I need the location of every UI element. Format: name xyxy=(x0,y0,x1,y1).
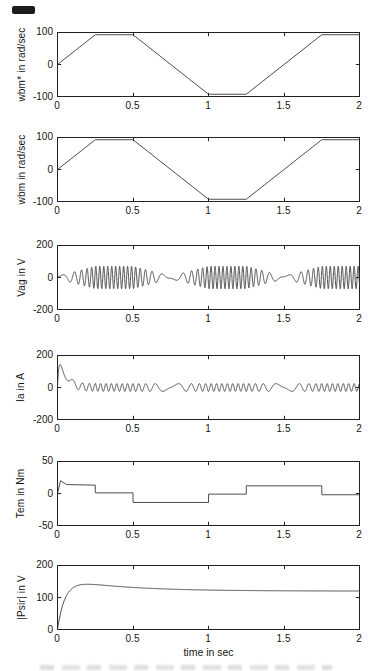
plot-canvas xyxy=(57,461,360,526)
x-tick-label: 2 xyxy=(342,633,376,645)
plot-canvas xyxy=(57,245,360,310)
x-tick-label: 1.5 xyxy=(267,205,301,217)
x-axis-label: time in sec xyxy=(57,646,360,658)
x-tick-label: 1.5 xyxy=(267,313,301,325)
waveform-psir xyxy=(58,584,360,629)
x-tick-label: 1.5 xyxy=(267,100,301,112)
x-tick-label: 1.5 xyxy=(267,529,301,541)
x-tick-label: 2 xyxy=(342,529,376,541)
x-tick-label: 0.5 xyxy=(116,529,150,541)
axes-border xyxy=(58,33,360,97)
x-tick-label: 1.5 xyxy=(267,423,301,435)
y-tick-label: 100 xyxy=(17,26,53,38)
waveform-ia xyxy=(58,365,360,392)
x-tick-label: 0 xyxy=(40,100,74,112)
waveform-tem xyxy=(58,481,360,503)
x-tick-label: 0 xyxy=(40,529,74,541)
axes-border xyxy=(58,138,360,202)
figure-page: wbm* in rad/sec1000-10000.511.52wbm in r… xyxy=(0,0,378,671)
x-tick-label: 1 xyxy=(191,100,225,112)
x-tick-label: 0 xyxy=(40,633,74,645)
x-tick-label: 1.5 xyxy=(267,633,301,645)
y-tick-label: 0 xyxy=(17,272,53,284)
y-tick-label: 0 xyxy=(17,164,53,176)
x-tick-label: 0.5 xyxy=(116,100,150,112)
x-tick-label: 1 xyxy=(191,313,225,325)
x-tick-label: 0.5 xyxy=(116,313,150,325)
y-tick-label: 0 xyxy=(17,382,53,394)
plot-box xyxy=(57,461,360,526)
axes-border xyxy=(58,462,360,526)
y-tick-label: 100 xyxy=(17,592,53,604)
x-tick-label: 2 xyxy=(342,100,376,112)
x-tick-label: 0 xyxy=(40,313,74,325)
y-tick-label: 0 xyxy=(17,488,53,500)
plot-box xyxy=(57,565,360,630)
x-tick-label: 1 xyxy=(191,423,225,435)
axes-border xyxy=(58,566,360,630)
plot-canvas xyxy=(57,565,360,630)
plot-box xyxy=(57,355,360,420)
x-tick-label: 0.5 xyxy=(116,423,150,435)
x-tick-label: 0 xyxy=(40,423,74,435)
x-tick-label: 0.5 xyxy=(116,633,150,645)
x-tick-label: 1 xyxy=(191,633,225,645)
x-tick-label: 0.5 xyxy=(116,205,150,217)
caption-remnant xyxy=(40,665,332,670)
y-tick-label: 200 xyxy=(17,239,53,251)
waveform-vag xyxy=(58,266,360,288)
y-tick-label: 200 xyxy=(17,349,53,361)
plot-box xyxy=(57,245,360,310)
x-tick-label: 1 xyxy=(191,205,225,217)
x-tick-label: 0 xyxy=(40,205,74,217)
plot-canvas xyxy=(57,355,360,420)
y-tick-label: 100 xyxy=(17,131,53,143)
plot-canvas xyxy=(57,32,360,97)
x-tick-label: 2 xyxy=(342,313,376,325)
scan-artifact-mark xyxy=(12,6,35,14)
x-tick-label: 2 xyxy=(342,205,376,217)
x-tick-label: 2 xyxy=(342,423,376,435)
plot-canvas xyxy=(57,137,360,202)
waveform-wbm-ref xyxy=(58,35,360,95)
plot-box xyxy=(57,137,360,202)
x-tick-label: 1 xyxy=(191,529,225,541)
plot-box xyxy=(57,32,360,97)
waveform-wbm xyxy=(58,140,360,200)
y-tick-label: 200 xyxy=(17,559,53,571)
y-tick-label: 50 xyxy=(17,455,53,467)
y-tick-label: 0 xyxy=(17,59,53,71)
